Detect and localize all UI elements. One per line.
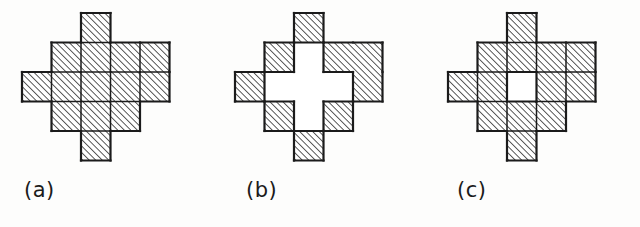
figure-board: (a)(b)(c) <box>0 0 640 227</box>
hole-region-c <box>506 71 537 102</box>
hatched-region-a <box>22 13 170 161</box>
figure-panel-b: (b) <box>213 0 426 227</box>
figure-panel-a: (a) <box>0 0 213 227</box>
figure-caption-b: (b) <box>213 176 459 204</box>
figure-drawing-a <box>0 0 213 180</box>
figure-drawing-b <box>213 0 426 180</box>
figure-drawing-c <box>426 0 639 180</box>
figure-panel-c: (c) <box>426 0 639 227</box>
figure-caption-c: (c) <box>426 176 640 204</box>
figure-caption-a: (a) <box>0 176 237 204</box>
